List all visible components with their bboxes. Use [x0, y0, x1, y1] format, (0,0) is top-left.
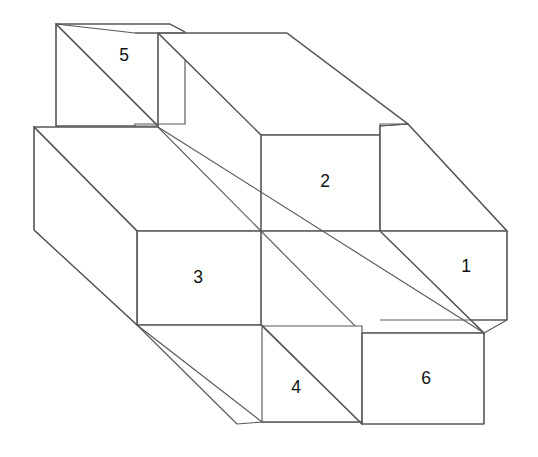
face-label-6: 6 [421, 368, 431, 388]
face-label-4: 4 [291, 377, 301, 397]
face-label-1: 1 [461, 256, 471, 276]
face-label-3: 3 [193, 267, 203, 287]
isometric-boxes-diagram: 123456 [0, 0, 538, 457]
face-label-2: 2 [320, 171, 330, 191]
figure-canvas: 123456 [0, 0, 538, 457]
face-label-5: 5 [119, 45, 129, 65]
